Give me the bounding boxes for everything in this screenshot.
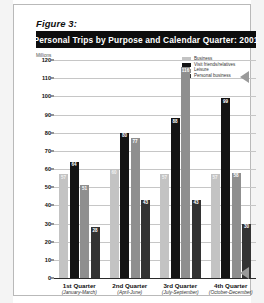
bar-value-label: 58 [233, 174, 238, 179]
bar-value-label: 88 [172, 120, 177, 125]
y-axis-tick-label: 30 [45, 221, 51, 227]
y-axis-tick-label: 120 [42, 57, 51, 63]
y-axis-tick-label: 60 [45, 166, 51, 172]
y-axis-tick-mark [51, 132, 54, 133]
bar-value-label: 30 [244, 225, 249, 230]
y-axis-tick-mark [51, 60, 54, 61]
y-axis-tick-label: 110 [42, 75, 51, 81]
bar-value-label: 51 [82, 187, 87, 192]
bar-value-label: 60 [111, 171, 116, 176]
figure-title-bar: Personal Trips by Purpose and Calendar Q… [36, 31, 256, 48]
y-axis-tick-mark [51, 278, 54, 279]
x-axis-quarter-name: 2nd Quarter [112, 282, 147, 289]
bar: 60 [110, 169, 119, 278]
bar-value-label: 57 [212, 176, 217, 181]
bar-value-label: 116 [182, 69, 189, 74]
pointer-arrow-icon-bottom [240, 267, 249, 279]
y-axis-tick-mark [51, 114, 54, 115]
figure-label: Figure 3: [36, 18, 77, 29]
bar: 28 [91, 227, 100, 278]
y-axis-tick-mark [51, 187, 54, 188]
page-title: Personal Trips by Purpose and Calendar Q… [33, 35, 258, 45]
y-axis-tick-label: 40 [45, 202, 51, 208]
bar: 80 [120, 133, 129, 278]
x-axis-quarter-name: 3rd Quarter [162, 282, 199, 289]
y-axis-tick-label: 10 [45, 257, 51, 263]
y-axis-tick-mark [51, 169, 54, 170]
x-axis-month-range: (January-March) [62, 290, 97, 295]
y-axis-tick-mark [51, 205, 54, 206]
bar: 99 [221, 98, 230, 278]
bar: 116 [181, 67, 190, 278]
bar: 64 [70, 162, 79, 278]
y-axis-tick-label: 90 [45, 112, 51, 118]
y-axis-tick-label: 80 [45, 130, 51, 136]
y-axis-tick-label: 100 [42, 93, 51, 99]
y-axis-tick-mark [51, 96, 54, 97]
x-axis-quarter-name: 4th Quarter [209, 282, 253, 289]
chart-plot-area: 0102030405060708090100110120 57645128608… [54, 60, 256, 278]
bar: 51 [80, 185, 89, 278]
bar: 58 [232, 173, 241, 278]
x-axis-category-label: 3rd Quarter(July-September) [162, 282, 199, 295]
bar: 57 [211, 174, 220, 278]
bar: 43 [141, 200, 150, 278]
bar-value-label: 28 [92, 229, 97, 234]
bar-value-label: 43 [143, 201, 148, 206]
bar: 88 [171, 118, 180, 278]
y-axis-tick-label: 0 [48, 275, 51, 281]
bar: 77 [131, 138, 140, 278]
bar-value-label: 77 [132, 140, 137, 145]
bar-value-label: 57 [162, 176, 167, 181]
gridline [54, 60, 256, 61]
x-axis-month-range: (April-June) [112, 290, 147, 295]
y-axis-tick-mark [51, 78, 54, 79]
bar-value-label: 64 [71, 163, 76, 168]
x-axis-month-range: (October-December) [209, 290, 253, 295]
bar-value-label: 99 [223, 100, 228, 105]
gridline [54, 278, 256, 279]
y-axis-tick-mark [51, 150, 54, 151]
pointer-arrow-icon-top [240, 71, 249, 83]
x-axis-quarter-name: 1st Quarter [62, 282, 97, 289]
bar-value-label: 80 [122, 134, 127, 139]
y-axis-tick-mark [51, 241, 54, 242]
page-left-gutter [0, 0, 13, 303]
x-axis-category-label: 1st Quarter(January-March) [62, 282, 97, 295]
figure-frame: Figure 3: Personal Trips by Purpose and … [13, 4, 251, 296]
bar: 43 [192, 200, 201, 278]
gridline [54, 78, 256, 79]
y-axis-tick-mark [51, 259, 54, 260]
bar: 57 [160, 174, 169, 278]
y-axis-tick-label: 50 [45, 184, 51, 190]
x-axis-category-label: 2nd Quarter(April-June) [112, 282, 147, 295]
y-axis-tick-mark [51, 223, 54, 224]
bar-value-label: 43 [193, 201, 198, 206]
y-axis-tick-label: 70 [45, 148, 51, 154]
bar-value-label: 57 [61, 176, 66, 181]
y-axis-tick-label: 20 [45, 239, 51, 245]
bar: 57 [59, 174, 68, 278]
x-axis-month-range: (July-September) [162, 290, 199, 295]
x-axis-category-label: 4th Quarter(October-December) [209, 282, 253, 295]
